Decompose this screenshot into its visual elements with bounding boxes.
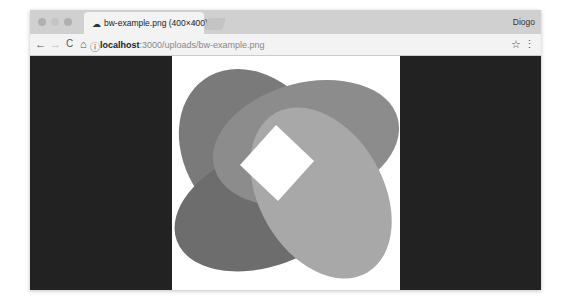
url-path: :3000/uploads/bw-example.png [140,40,265,50]
maximize-window-button[interactable] [64,18,72,26]
toolbar: ← → C ⌂ ⓘ localhost:3000/uploads/bw-exam… [30,34,541,56]
minimize-window-button[interactable] [51,18,59,26]
ribbon-knot-image [172,56,400,290]
forward-icon[interactable]: → [50,38,61,50]
address-bar[interactable]: localhost:3000/uploads/bw-example.png [100,40,265,50]
new-tab-button[interactable] [204,18,225,30]
browser-window: ☁ bw-example.png (400×400) × Diogo ← → C… [30,10,541,290]
tab-close-icon[interactable]: × [192,18,197,27]
tab-active[interactable]: ☁ bw-example.png (400×400) × [84,12,204,34]
reload-icon[interactable]: C [66,38,73,49]
cloud-icon: ☁ [92,19,101,29]
tab-bar: ☁ bw-example.png (400×400) × Diogo [30,10,541,34]
back-icon[interactable]: ← [35,38,46,50]
page-content [30,56,541,290]
profile-name[interactable]: Diogo [513,17,535,27]
image-viewer [172,56,400,290]
bookmark-star-icon[interactable]: ☆ [511,38,521,51]
menu-icon[interactable]: ⋮ [524,38,535,51]
home-icon[interactable]: ⌂ [80,38,87,50]
url-host: localhost [100,40,140,50]
info-icon[interactable]: ⓘ [90,39,100,54]
close-window-button[interactable] [38,18,46,26]
